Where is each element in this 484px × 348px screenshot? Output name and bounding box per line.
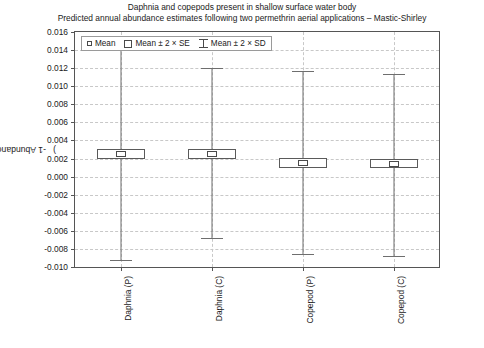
sd-whisker-cap-top bbox=[201, 68, 223, 69]
legend-label-mean: Mean bbox=[95, 39, 115, 48]
plot-area: 0.0160.0140.0120.0100.0080.0060.0040.002… bbox=[74, 31, 440, 268]
y-axis-tick-label: -0.002 bbox=[44, 190, 68, 198]
chart-title-block: Daphnia and copepods present in shallow … bbox=[0, 2, 484, 24]
mean-marker[interactable] bbox=[116, 151, 126, 157]
y-axis-tick-label: -0.004 bbox=[44, 209, 68, 217]
x-axis-tick bbox=[212, 267, 213, 271]
gridline-horizontal bbox=[75, 122, 439, 123]
y-axis-tick-label: 0.012 bbox=[47, 64, 68, 72]
gridline-horizontal bbox=[75, 231, 439, 232]
y-axis-tick-label: 0.014 bbox=[47, 46, 68, 54]
sd-whisker-cap-bottom bbox=[292, 254, 314, 255]
legend-item-mean: Mean bbox=[87, 39, 115, 48]
mean-marker[interactable] bbox=[389, 161, 399, 167]
y-axis-tick bbox=[71, 32, 75, 33]
legend-item-se: Mean ± 2 × SE bbox=[124, 39, 189, 48]
y-axis-tick-label: 0.004 bbox=[47, 136, 68, 144]
y-axis-tick bbox=[71, 68, 75, 69]
y-axis-tick bbox=[71, 195, 75, 196]
legend: Mean Mean ± 2 × SE Mean ± 2 × SD bbox=[81, 36, 272, 51]
x-axis-tick-label: Daphnia (C) bbox=[215, 276, 223, 321]
y-axis-tick bbox=[71, 50, 75, 51]
x-axis-tick bbox=[394, 267, 395, 271]
figure-canvas: Daphnia and copepods present in shallow … bbox=[0, 0, 484, 348]
y-axis-tick-label: 0.000 bbox=[47, 172, 68, 180]
legend-label-se: Mean ± 2 × SE bbox=[135, 39, 189, 48]
legend-item-sd: Mean ± 2 × SD bbox=[199, 39, 266, 48]
gridline-horizontal bbox=[75, 140, 439, 141]
y-axis-tick-label: 0.016 bbox=[47, 28, 68, 36]
x-axis-tick bbox=[121, 267, 122, 271]
y-axis-tick bbox=[71, 213, 75, 214]
mean-marker[interactable] bbox=[298, 160, 308, 166]
y-axis-tick-label: 0.008 bbox=[47, 100, 68, 108]
y-axis-tick bbox=[71, 122, 75, 123]
sd-whisker-cap-bottom bbox=[383, 256, 405, 257]
gridline-horizontal bbox=[75, 68, 439, 69]
y-axis-tick bbox=[71, 177, 75, 178]
y-axis-tick-label: -0.006 bbox=[44, 227, 68, 235]
y-axis-tick bbox=[71, 231, 75, 232]
y-axis-tick bbox=[71, 86, 75, 87]
gridline-horizontal bbox=[75, 213, 439, 214]
gridline-horizontal bbox=[75, 104, 439, 105]
legend-label-sd: Mean ± 2 × SD bbox=[211, 39, 266, 48]
gridline-horizontal bbox=[75, 177, 439, 178]
y-axis-tick-label: 0.006 bbox=[47, 118, 68, 126]
gridline-horizontal bbox=[75, 195, 439, 196]
sd-whisker-cap-bottom bbox=[201, 238, 223, 239]
mean-square-icon bbox=[87, 41, 92, 46]
sd-whisker-cap-bottom bbox=[110, 260, 132, 261]
y-axis-tick-label: 0.010 bbox=[47, 82, 68, 90]
x-axis-tick-label: Copepod (P) bbox=[306, 276, 314, 324]
y-axis-tick-label: 0.002 bbox=[47, 154, 68, 162]
y-axis-tick bbox=[71, 104, 75, 105]
y-axis-tick bbox=[71, 140, 75, 141]
sd-whisker-cap-top bbox=[383, 74, 405, 75]
y-axis-tick bbox=[71, 267, 75, 268]
mean-marker[interactable] bbox=[207, 151, 217, 157]
sd-whisker-icon bbox=[199, 39, 208, 48]
y-axis-tick bbox=[71, 159, 75, 160]
y-axis-tick-label: -0.010 bbox=[44, 263, 68, 271]
x-axis-tick-label: Daphnia (P) bbox=[124, 276, 132, 321]
se-box-icon bbox=[124, 40, 132, 48]
x-axis-tick bbox=[303, 267, 304, 271]
gridline-horizontal bbox=[75, 86, 439, 87]
y-axis-title: Abundance (mg l-1) bbox=[6, 31, 20, 268]
sd-whisker-cap-top bbox=[292, 71, 314, 72]
y-axis-tick bbox=[71, 249, 75, 250]
gridline-horizontal bbox=[75, 249, 439, 250]
chart-subtitle: Predicted annual abundance estimates fol… bbox=[0, 13, 484, 24]
chart-title: Daphnia and copepods present in shallow … bbox=[0, 2, 484, 13]
y-axis-tick-label: -0.008 bbox=[44, 245, 68, 253]
x-axis-tick-label: Copepod (C) bbox=[397, 276, 405, 324]
plot-inner: 0.0160.0140.0120.0100.0080.0060.0040.002… bbox=[75, 32, 439, 267]
